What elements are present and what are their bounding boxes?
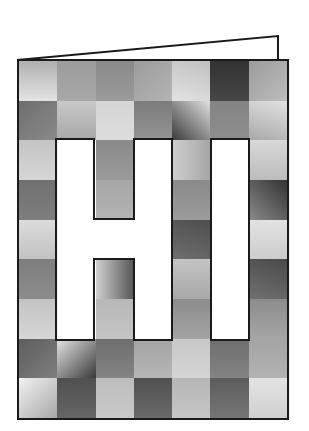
pattern-tile (19, 61, 57, 101)
pattern-tile (249, 140, 287, 180)
pattern-tile (57, 339, 95, 379)
pattern-tile (96, 339, 134, 379)
letter-cutout-tile (210, 140, 248, 180)
pattern-tile (134, 378, 172, 418)
letter-cutout-tile (96, 220, 134, 260)
letter-cutout-tile (134, 140, 172, 180)
pattern-tile (172, 140, 210, 180)
pattern-tile (249, 101, 287, 141)
pattern-tile (96, 180, 134, 220)
pattern-tile (249, 61, 287, 101)
letter-cutout-tile (134, 180, 172, 220)
pattern-tile (210, 101, 248, 141)
pattern-tile (19, 259, 57, 299)
pattern-tile (210, 61, 248, 101)
pattern-tile (19, 299, 57, 339)
pattern-tile (134, 339, 172, 379)
letter-cutout-tile (57, 140, 95, 180)
letter-cutout-tile (210, 299, 248, 339)
pattern-tile (249, 378, 287, 418)
letter-cutout-tile (57, 259, 95, 299)
pattern-tile (57, 101, 95, 141)
greeting-card-front (17, 59, 289, 420)
pattern-tile (134, 101, 172, 141)
letter-cutout-tile (57, 220, 95, 260)
pattern-tile (249, 259, 287, 299)
pattern-tile (249, 220, 287, 260)
pattern-tile (134, 61, 172, 101)
pattern-tile (249, 180, 287, 220)
pattern-tile (210, 339, 248, 379)
pattern-tile (96, 140, 134, 180)
letter-cutout-tile (210, 180, 248, 220)
letter-cutout-tile (134, 220, 172, 260)
pattern-tile (19, 339, 57, 379)
pattern-tile (172, 299, 210, 339)
pattern-tile (210, 378, 248, 418)
pattern-tile (172, 61, 210, 101)
pattern-tile (96, 101, 134, 141)
letter-cutout-tile (134, 259, 172, 299)
letter-cutout-tile (57, 299, 95, 339)
pattern-tile (249, 339, 287, 379)
pattern-tile (172, 101, 210, 141)
pattern-tile (172, 339, 210, 379)
pattern-tile (19, 101, 57, 141)
pattern-tile (57, 378, 95, 418)
pattern-tile (57, 61, 95, 101)
pattern-tile (172, 259, 210, 299)
pattern-tile (96, 259, 134, 299)
pattern-tile (19, 180, 57, 220)
letter-cutout-tile (210, 220, 248, 260)
letter-cutout-tile (134, 299, 172, 339)
pattern-tile (172, 378, 210, 418)
pattern-tile (19, 140, 57, 180)
pattern-tile (172, 220, 210, 260)
pattern-tile (249, 299, 287, 339)
letter-cutout-tile (57, 180, 95, 220)
pattern-tile (96, 378, 134, 418)
pattern-tile (172, 180, 210, 220)
pattern-tile (96, 61, 134, 101)
pattern-tile (19, 220, 57, 260)
pattern-tile (96, 299, 134, 339)
letter-cutout-tile (210, 259, 248, 299)
pattern-tile (19, 378, 57, 418)
